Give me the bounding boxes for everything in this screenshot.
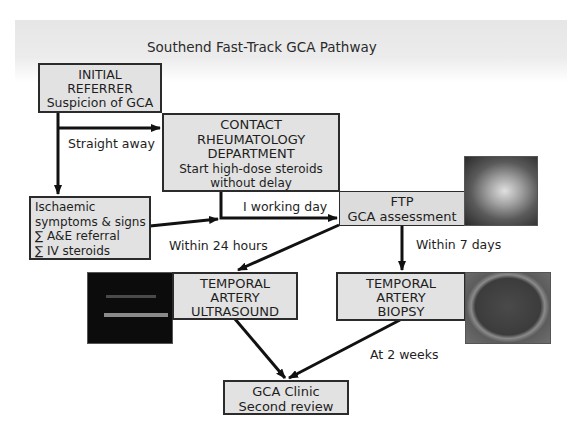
label-straight-away: Straight away [68,136,155,151]
contact-rheumatology-box: CONTACT RHEUMATOLOGY DEPARTMENT Start hi… [162,113,340,192]
ftp-assessment-box: FTP GCA assessment [339,191,465,226]
node-line: ∑ IV steroids [35,244,149,259]
node-line: Suspicion of GCA [40,96,160,110]
label-working-day: I working day [243,199,327,214]
node-line: TEMPORAL [174,277,296,291]
node-line: ULTRASOUND [174,305,296,319]
ultrasound-band [106,295,156,298]
node-line: symptoms & signs [35,215,149,230]
node-line: GCA Clinic [225,384,347,399]
node-line: INITIAL [40,68,160,82]
gca-clinic-box: GCA Clinic Second review [223,380,349,415]
node-line: GCA assessment [340,209,464,224]
label-at-2-weeks: At 2 weeks [370,347,439,362]
node-line: TEMPORAL [338,277,464,291]
ultrasound-band [104,313,168,317]
initial-referrer-box: INITIAL REFERRER Suspicion of GCA [38,63,162,113]
ischaemic-box: Ischaemic symptoms & signs ∑ A&E referra… [29,196,151,260]
node-line: ∑ A&E referral [35,229,149,244]
label-within-7-days: Within 7 days [416,237,501,252]
node-line: without delay [164,176,338,191]
temporal-artery-biopsy-box: TEMPORAL ARTERY BIOPSY [336,272,466,321]
node-line: Start high-dose steroids [164,162,338,177]
ftp-clinical-photo [464,156,538,226]
ultrasound-image [87,272,173,344]
temporal-artery-ultrasound-box: TEMPORAL ARTERY ULTRASOUND [172,272,298,320]
biopsy-image [465,272,551,344]
node-line: ARTERY [174,291,296,305]
node-line: Ischaemic [35,200,149,215]
node-line: FTP [340,194,464,209]
node-line: ARTERY [338,291,464,305]
label-within-24-hours: Within 24 hours [169,238,268,253]
node-line: RHEUMATOLOGY [164,133,338,148]
node-line: DEPARTMENT [164,147,338,162]
node-line: CONTACT [164,118,338,133]
node-line: Second review [225,399,347,414]
node-line: REFERRER [40,82,160,96]
node-line: BIOPSY [338,305,464,319]
